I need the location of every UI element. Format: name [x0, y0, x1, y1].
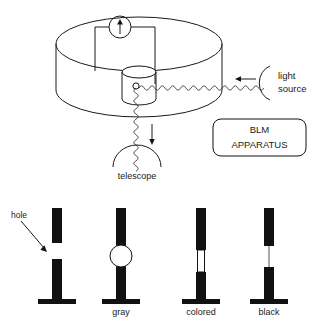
hole-annotation: hole: [11, 210, 47, 252]
stage-colored: colored: [182, 208, 220, 317]
stage-hole: [38, 208, 76, 304]
arrow-down-icon: [149, 124, 154, 145]
stage-gray-caption: gray: [112, 307, 130, 317]
arrow-up-meter-icon: [109, 16, 131, 38]
stage-colored-caption: colored: [186, 307, 216, 317]
stage-black: black: [250, 208, 288, 317]
light-source-label-line2: source: [278, 83, 307, 94]
light-source-label-line1: light: [278, 70, 296, 81]
stage-black-caption: black: [258, 307, 280, 317]
figure-canvas: light source telescope BLM APPARATUS: [0, 0, 320, 326]
wavy-light-ray-icon: [139, 86, 264, 90]
blm-figure: light source telescope BLM APPARATUS: [0, 0, 320, 326]
arrow-diagonal-icon: [21, 221, 47, 252]
wavy-scatter-ray-icon: [134, 88, 138, 171]
hole-label: hole: [11, 210, 27, 220]
light-source-bracket-icon: [259, 66, 270, 100]
arrow-left-icon: [235, 76, 256, 81]
telescope-label: telescope: [118, 171, 157, 181]
blm-apparatus-label-line2: APPARATUS: [231, 139, 287, 150]
blm-apparatus-box: BLM APPARATUS: [213, 119, 306, 156]
stage-gray: gray: [102, 208, 140, 317]
blm-apparatus-label-line1: BLM: [250, 124, 270, 135]
